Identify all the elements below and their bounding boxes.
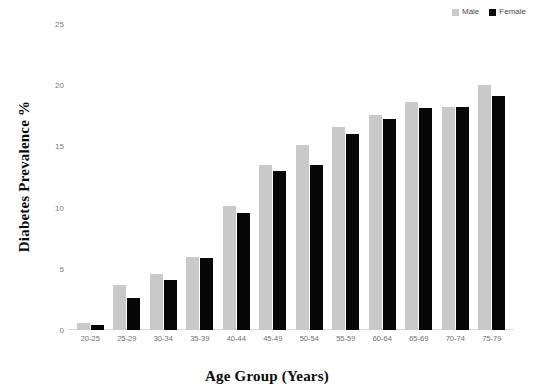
bar-female-70-74[interactable] — [456, 107, 469, 330]
bar-female-35-39[interactable] — [200, 258, 213, 330]
bar-male-45-49[interactable] — [259, 165, 272, 330]
y-tick-label-10: 10 — [38, 203, 64, 212]
x-tick-label-35-39: 35-39 — [182, 334, 219, 343]
y-tick-label-5: 5 — [38, 264, 64, 273]
bar-male-75-79[interactable] — [478, 85, 491, 330]
bar-female-55-59[interactable] — [346, 134, 359, 330]
bar-group — [291, 24, 328, 330]
legend-swatch-male — [452, 9, 459, 16]
bar-female-40-44[interactable] — [237, 213, 250, 331]
bar-group — [145, 24, 182, 330]
bar-groups — [68, 24, 514, 330]
x-tick-label-55-59: 55-59 — [328, 334, 365, 343]
x-tick-label-20-25: 20-25 — [72, 334, 109, 343]
bar-male-20-25[interactable] — [77, 323, 90, 330]
bar-group — [72, 24, 109, 330]
y-axis-title: Diabetes Prevalence % — [16, 57, 33, 297]
y-tick-label-25: 25 — [38, 20, 64, 29]
bar-male-50-54[interactable] — [296, 145, 309, 330]
bar-male-65-69[interactable] — [405, 102, 418, 330]
bar-female-75-79[interactable] — [492, 96, 505, 330]
bar-female-20-25[interactable] — [91, 325, 104, 330]
bar-male-35-39[interactable] — [186, 257, 199, 330]
bar-group — [364, 24, 401, 330]
bar-female-65-69[interactable] — [419, 108, 432, 330]
bar-female-60-64[interactable] — [383, 119, 396, 330]
plot-area — [68, 24, 514, 330]
bar-female-45-49[interactable] — [273, 171, 286, 330]
y-tick-label-20: 20 — [38, 81, 64, 90]
legend-entry-male: Male — [452, 8, 479, 16]
x-axis-title: Age Group (Years) — [0, 368, 534, 385]
bar-group — [182, 24, 219, 330]
bar-male-30-34[interactable] — [150, 274, 163, 330]
bar-group — [328, 24, 365, 330]
x-tick-label-30-34: 30-34 — [145, 334, 182, 343]
x-axis-ticks: 20-2525-2930-3435-3940-4445-4950-5455-59… — [68, 334, 514, 343]
legend-entry-female: Female — [489, 8, 526, 16]
x-tick-label-75-79: 75-79 — [474, 334, 511, 343]
bar-male-55-59[interactable] — [332, 127, 345, 330]
legend-label-female: Female — [499, 8, 526, 16]
bar-group — [474, 24, 511, 330]
diabetes-prevalence-bar-chart: Male Female Diabetes Prevalence % 051015… — [0, 0, 534, 389]
bar-female-25-29[interactable] — [127, 298, 140, 330]
bar-male-60-64[interactable] — [369, 115, 382, 330]
x-tick-label-25-29: 25-29 — [109, 334, 146, 343]
x-tick-label-65-69: 65-69 — [401, 334, 438, 343]
x-tick-label-60-64: 60-64 — [364, 334, 401, 343]
chart-legend: Male Female — [452, 8, 526, 16]
x-tick-label-40-44: 40-44 — [218, 334, 255, 343]
bar-group — [218, 24, 255, 330]
bar-male-25-29[interactable] — [113, 285, 126, 330]
bar-group — [255, 24, 292, 330]
x-tick-label-50-54: 50-54 — [291, 334, 328, 343]
legend-swatch-female — [489, 9, 496, 16]
bar-male-70-74[interactable] — [442, 107, 455, 330]
bar-group — [401, 24, 438, 330]
y-tick-label-0: 0 — [38, 326, 64, 335]
x-tick-label-45-49: 45-49 — [255, 334, 292, 343]
bar-group — [109, 24, 146, 330]
bar-female-30-34[interactable] — [164, 280, 177, 330]
legend-label-male: Male — [462, 8, 479, 16]
y-tick-label-15: 15 — [38, 142, 64, 151]
bar-female-50-54[interactable] — [310, 165, 323, 330]
x-tick-label-70-74: 70-74 — [437, 334, 474, 343]
bar-group — [437, 24, 474, 330]
bar-male-40-44[interactable] — [223, 206, 236, 330]
